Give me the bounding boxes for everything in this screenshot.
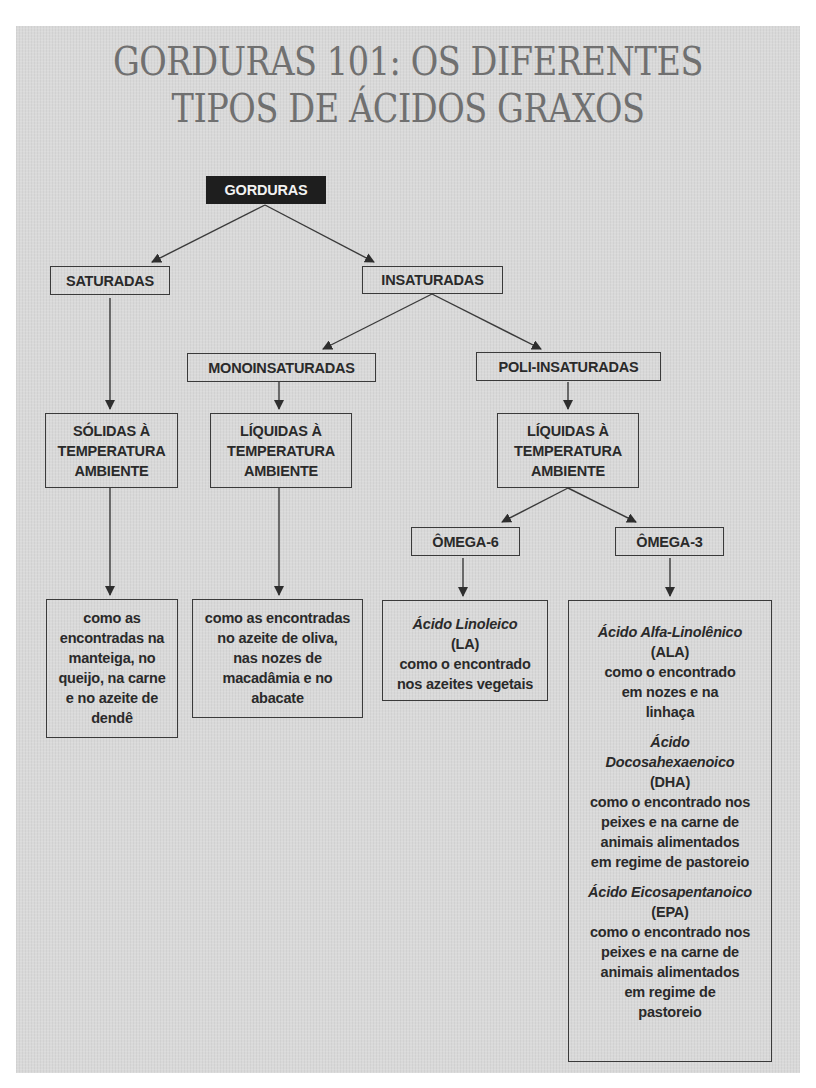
acid-source-line: como o encontrado (604, 662, 735, 682)
omega6-label: ÔMEGA-6 (432, 532, 498, 552)
arrow-poly-state-to-omega6 (502, 488, 568, 522)
node-omega-3: ÔMEGA-3 (615, 527, 724, 556)
state-line: TEMPERATURA (58, 441, 166, 461)
state-line: AMBIENTE (244, 461, 318, 481)
node-omega-6: ÔMEGA-6 (411, 527, 520, 556)
acid-source-line: linhaça (646, 702, 695, 722)
state-line: AMBIENTE (531, 461, 605, 481)
example-line: abacate (251, 688, 304, 708)
acid-name: Ácido (650, 732, 689, 752)
state-line: TEMPERATURA (514, 441, 622, 461)
acid-source-line: como o encontrado nos (590, 792, 750, 812)
state-line: TEMPERATURA (227, 441, 335, 461)
state-line: LÍQUIDAS À (527, 421, 609, 441)
acid-source-line: pastoreio (638, 1002, 701, 1022)
acid-source-line: nos azeites vegetais (397, 674, 533, 694)
example-line: nas nozes de (233, 648, 322, 668)
acid-source-line: peixes e na carne de (601, 942, 739, 962)
node-monounsaturated: MONOINSATURADAS (187, 353, 376, 382)
acid-source-line: peixes e na carne de (601, 812, 739, 832)
poly-label: POLI-INSATURADAS (499, 357, 639, 377)
acid-source-line: em regime de (624, 982, 715, 1002)
acid-name: Ácido Alfa-Linolênico (598, 622, 742, 642)
omega3-label: ÔMEGA-3 (636, 532, 702, 552)
root-label: GORDURAS (225, 180, 308, 200)
acid-source-line: como o encontrado nos (590, 922, 750, 942)
acid-abbr: (EPA) (651, 902, 688, 922)
node-poly-state: LÍQUIDAS À TEMPERATURA AMBIENTE (497, 413, 639, 488)
node-mono-examples: como as encontradas no azeite de oliva, … (192, 599, 363, 718)
example-line: queijo, na carne (58, 668, 165, 688)
node-unsaturated: INSATURADAS (362, 266, 503, 294)
acid-source-line: em regime de pastoreio (591, 852, 749, 872)
node-omega6-la: Ácido Linoleico (LA) como o encontrado n… (382, 600, 548, 701)
saturated-label: SATURADAS (66, 271, 154, 291)
acid-source-line: como o encontrado (399, 654, 530, 674)
example-line: como as (83, 608, 140, 628)
acid-name: Ácido Eicosapentanoico (588, 882, 752, 902)
example-line: e no azeite de (66, 688, 158, 708)
state-line: SÓLIDAS À (73, 421, 150, 441)
node-omega3-acids: Ácido Alfa-Linolênico (ALA) como o encon… (568, 600, 772, 1062)
node-mono-state: LÍQUIDAS À TEMPERATURA AMBIENTE (210, 413, 352, 488)
acid-source-line: animais alimentados (601, 832, 740, 852)
example-line: dendê (91, 708, 133, 728)
acid-abbr: (ALA) (651, 642, 689, 662)
node-saturated-state: SÓLIDAS À TEMPERATURA AMBIENTE (45, 413, 178, 488)
unsaturated-label: INSATURADAS (381, 270, 483, 290)
node-polyunsaturated: POLI-INSATURADAS (476, 352, 661, 381)
example-line: manteiga, no (68, 648, 155, 668)
example-line: no azeite de oliva, (217, 628, 337, 648)
acid-name: Docosahexaenoico (606, 752, 735, 772)
mono-label: MONOINSATURADAS (208, 358, 355, 378)
root-node-gorduras: GORDURAS (206, 176, 326, 204)
acid-abbr: (DHA) (650, 772, 690, 792)
state-line: AMBIENTE (74, 461, 148, 481)
acid-source-line: animais alimentados (601, 962, 740, 982)
arrow-root-to-saturated (152, 205, 265, 262)
arrow-poly-state-to-omega3 (568, 488, 636, 522)
acid-name: Ácido Linoleico (413, 614, 518, 634)
node-saturated-examples: como as encontradas na manteiga, no quei… (46, 599, 178, 738)
arrow-unsaturated-to-poly (432, 294, 541, 349)
state-line: LÍQUIDAS À (240, 421, 322, 441)
acid-abbr: (LA) (451, 634, 479, 654)
example-line: encontradas na (60, 628, 164, 648)
example-line: macadâmia e no (222, 668, 332, 688)
example-line: como as encontradas (205, 608, 350, 628)
acid-source-line: em nozes e na (622, 682, 719, 702)
node-saturated: SATURADAS (50, 266, 170, 295)
arrow-root-to-unsaturated (265, 205, 374, 262)
arrow-unsaturated-to-mono (323, 294, 432, 349)
